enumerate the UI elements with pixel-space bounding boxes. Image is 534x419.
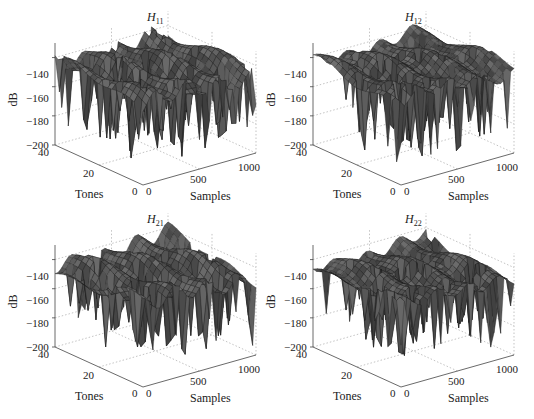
- z-tick: −140: [284, 271, 307, 282]
- z-tick: −180: [26, 318, 49, 329]
- x-axis-label: Samples: [448, 392, 489, 404]
- z-tick: −140: [26, 271, 49, 282]
- y-axis-label: Tones: [75, 390, 104, 402]
- y-tick: 20: [83, 370, 94, 381]
- z-axis-label: dB: [6, 294, 21, 308]
- y-axis-label: Tones: [333, 188, 362, 200]
- z-axis-label: dB: [264, 92, 279, 106]
- plot-h11: H11 dB −140 −160 −180 −200 40 20 0 0 500…: [0, 0, 267, 210]
- z-tick: −180: [26, 116, 49, 127]
- surface-plot: [267, 0, 534, 210]
- y-tick: 0: [132, 388, 138, 399]
- x-axis-label: Samples: [190, 392, 231, 404]
- y-tick: 40: [296, 349, 307, 360]
- plot-title: H12: [405, 10, 422, 26]
- z-tick: −140: [26, 69, 49, 80]
- z-tick: −140: [284, 69, 307, 80]
- z-tick: −160: [284, 295, 307, 306]
- surface-plot: [267, 210, 534, 419]
- y-tick: 20: [341, 370, 352, 381]
- figure-grid: H11 dB −140 −160 −180 −200 40 20 0 0 500…: [0, 0, 534, 419]
- x-tick: 0: [146, 186, 152, 197]
- plot-h21: H21 dB −140 −160 −180 −200 40 20 0 0 500…: [0, 210, 267, 419]
- plot-h22: H22 dB −140 −160 −180 −200 40 20 0 0 500…: [267, 210, 534, 419]
- z-tick: −160: [284, 93, 307, 104]
- x-tick: 0: [146, 388, 152, 399]
- z-axis-label: dB: [6, 92, 21, 106]
- x-axis-label: Samples: [190, 190, 231, 202]
- x-tick: 0: [404, 186, 410, 197]
- x-tick: 1000: [238, 162, 260, 173]
- y-axis-label: Tones: [333, 390, 362, 402]
- y-axis-label: Tones: [75, 188, 104, 200]
- y-tick: 0: [390, 186, 396, 197]
- surface-plot: [0, 0, 267, 210]
- plot-title: H22: [405, 212, 422, 228]
- z-tick: −160: [26, 93, 49, 104]
- y-tick: 0: [132, 186, 138, 197]
- plot-title: H11: [147, 10, 163, 26]
- x-axis-label: Samples: [448, 190, 489, 202]
- x-tick: 500: [448, 174, 465, 185]
- z-axis-label: dB: [264, 294, 279, 308]
- y-tick: 40: [38, 147, 49, 158]
- z-tick: −180: [284, 318, 307, 329]
- z-tick: −180: [284, 116, 307, 127]
- x-tick: 500: [190, 376, 207, 387]
- y-tick: 20: [83, 168, 94, 179]
- y-tick: 40: [296, 147, 307, 158]
- plot-h12: H12 dB −140 −160 −180 −200 40 20 0 0 500…: [267, 0, 534, 210]
- plot-title: H21: [147, 212, 164, 228]
- x-tick: 1000: [238, 364, 260, 375]
- y-tick: 20: [341, 168, 352, 179]
- x-tick: 0: [404, 388, 410, 399]
- x-tick: 500: [448, 376, 465, 387]
- x-tick: 1000: [496, 364, 518, 375]
- y-tick: 40: [38, 349, 49, 360]
- x-tick: 500: [190, 174, 207, 185]
- x-tick: 1000: [496, 162, 518, 173]
- z-tick: −160: [26, 295, 49, 306]
- y-tick: 0: [390, 388, 396, 399]
